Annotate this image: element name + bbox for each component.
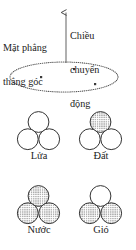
wind-circle-bottom-left xyxy=(79,203,100,224)
wind-circle-bottom-right xyxy=(101,203,122,224)
plane-label-line-1: Mặt phẳng xyxy=(3,42,47,53)
fire-circle-bottom-left xyxy=(17,129,38,150)
earth-circle-bottom-right xyxy=(101,129,122,150)
figure-canvas: Mặt phẳng thẳng góc Chiều chuyển động Lử… xyxy=(0,0,136,250)
element-label-earth: Đất xyxy=(70,150,132,162)
motion-label-line-3: động xyxy=(70,98,99,109)
water-circle-bottom-right xyxy=(39,203,60,224)
motion-label-line-1: Chiều xyxy=(70,30,99,41)
perpendicular-plane-label: Mặt phẳng thẳng góc xyxy=(3,19,47,110)
motion-direction-label: Chiều chuyển động xyxy=(70,7,99,133)
element-symbol-water xyxy=(17,186,59,224)
water-circle-bottom-left xyxy=(17,203,38,224)
motion-label-line-2: chuyển xyxy=(70,64,99,75)
element-label-water: Nước xyxy=(8,224,70,236)
plane-label-line-2: thẳng góc xyxy=(3,76,47,87)
element-label-fire: Lửa xyxy=(8,150,70,162)
element-symbol-fire xyxy=(17,112,59,150)
element-label-wind: Gió xyxy=(70,224,132,236)
element-symbol-wind xyxy=(79,186,121,224)
fire-circle-bottom-right xyxy=(39,129,60,150)
